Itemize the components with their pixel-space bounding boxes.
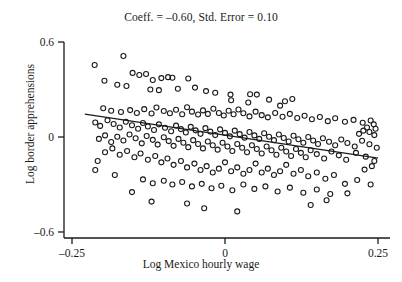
data-point xyxy=(142,107,147,112)
data-point xyxy=(253,109,258,114)
data-point xyxy=(125,148,130,153)
data-point xyxy=(241,182,246,187)
x-tick-label: 0 xyxy=(222,247,228,259)
data-point xyxy=(189,109,194,114)
data-point xyxy=(274,152,279,157)
y-tick-label: 0.6 xyxy=(40,36,55,48)
y-tick-label: –0.6 xyxy=(33,226,54,238)
data-point xyxy=(199,181,204,186)
data-point xyxy=(263,184,268,189)
data-point xyxy=(117,152,122,157)
data-point xyxy=(155,142,160,147)
data-point xyxy=(344,157,349,162)
data-point xyxy=(252,133,257,138)
data-point xyxy=(230,188,235,193)
data-point xyxy=(103,150,108,155)
data-point xyxy=(101,106,106,111)
data-point xyxy=(317,115,322,120)
data-point xyxy=(373,126,378,131)
data-point xyxy=(333,116,338,121)
data-point xyxy=(280,114,285,119)
data-point xyxy=(175,86,180,91)
data-point xyxy=(232,128,237,133)
data-point xyxy=(185,201,190,206)
data-point xyxy=(314,152,319,157)
data-point xyxy=(200,146,205,151)
data-point xyxy=(367,142,372,147)
data-point xyxy=(216,110,221,115)
data-point xyxy=(150,78,155,83)
data-point xyxy=(140,177,145,182)
data-point xyxy=(246,100,251,105)
data-point xyxy=(178,159,183,164)
data-point xyxy=(216,166,221,171)
data-point xyxy=(301,140,306,145)
data-point xyxy=(121,138,126,143)
data-point xyxy=(230,148,235,153)
data-point xyxy=(367,129,372,134)
data-point xyxy=(92,62,97,67)
data-point xyxy=(110,146,115,151)
data-point xyxy=(291,133,296,138)
data-point xyxy=(254,92,259,97)
data-point xyxy=(219,183,224,188)
data-point xyxy=(339,137,344,142)
data-point xyxy=(302,113,307,118)
data-point xyxy=(253,161,258,166)
data-point xyxy=(167,111,172,116)
data-point xyxy=(149,199,154,204)
data-point xyxy=(267,97,272,102)
data-point xyxy=(134,110,139,115)
data-point xyxy=(138,151,143,156)
data-point xyxy=(109,108,114,113)
data-point xyxy=(221,113,226,118)
data-point xyxy=(295,116,300,121)
data-point xyxy=(278,103,283,108)
data-point xyxy=(150,137,155,142)
data-point xyxy=(204,89,209,94)
data-point xyxy=(264,144,269,149)
data-point xyxy=(235,141,240,146)
data-point xyxy=(165,156,170,161)
data-point xyxy=(240,145,245,150)
data-point xyxy=(129,123,134,128)
plot-area: 0.60–0.6 –0.2500.25 xyxy=(0,0,402,282)
data-point xyxy=(252,186,257,191)
scatter-plot-figure: Coeff. = –0.60, Std. Error = 0.10 Log bo… xyxy=(0,0,402,282)
data-point xyxy=(96,136,101,141)
data-point xyxy=(314,187,319,192)
data-point xyxy=(372,133,377,138)
data-point xyxy=(254,147,259,152)
data-point xyxy=(205,111,210,116)
data-point xyxy=(314,170,319,175)
data-point xyxy=(200,108,205,113)
data-point xyxy=(124,84,129,89)
data-point xyxy=(298,167,303,172)
data-point xyxy=(360,138,365,143)
data-point xyxy=(181,140,186,145)
data-point xyxy=(174,107,179,112)
data-point xyxy=(161,178,166,183)
data-point xyxy=(191,138,196,143)
data-point xyxy=(374,145,379,150)
data-point xyxy=(121,53,126,58)
data-point xyxy=(139,141,144,146)
data-point xyxy=(185,165,190,170)
data-point xyxy=(278,169,283,174)
data-point xyxy=(316,141,321,146)
data-point xyxy=(171,162,176,167)
data-point xyxy=(145,157,150,162)
data-point xyxy=(154,105,159,110)
data-point xyxy=(309,117,314,122)
data-point xyxy=(342,181,347,186)
data-point xyxy=(186,76,191,81)
data-point xyxy=(311,138,316,143)
data-point xyxy=(148,87,153,92)
data-point xyxy=(289,154,294,159)
data-point xyxy=(360,120,365,125)
data-point xyxy=(245,150,250,155)
data-point xyxy=(211,106,216,111)
data-point xyxy=(136,126,141,131)
data-point xyxy=(301,190,306,195)
data-point xyxy=(129,190,134,195)
